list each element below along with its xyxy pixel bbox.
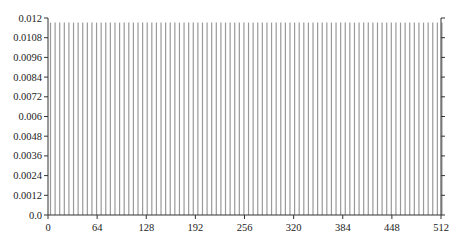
- x-tick-label: 64: [92, 222, 103, 233]
- bars: [51, 23, 442, 215]
- x-tick-label: 128: [138, 222, 154, 233]
- y-tick-label: 0.0024: [13, 170, 43, 181]
- x-tick-label: 256: [237, 222, 253, 233]
- y-tick-label: 0.0036: [13, 150, 42, 161]
- bar-chart: 0.00.00120.00240.00360.00480.0060.00720.…: [0, 0, 455, 242]
- x-tick-label: 0: [45, 222, 50, 233]
- y-tick-label: 0.0096: [13, 52, 42, 63]
- y-tick-label: 0.0084: [13, 72, 43, 83]
- y-tick-label: 0.0: [29, 210, 42, 221]
- x-axis-ticks: 064128192256320384448512: [45, 215, 449, 233]
- y-tick-label: 0.0072: [13, 91, 42, 102]
- x-tick-label: 192: [188, 222, 204, 233]
- x-tick-label: 320: [286, 222, 302, 233]
- y-tick-label: 0.012: [18, 13, 42, 24]
- x-tick-label: 448: [384, 222, 400, 233]
- y-tick-label: 0.0108: [13, 32, 42, 43]
- x-tick-label: 384: [335, 222, 352, 233]
- y-tick-label: 0.0012: [13, 190, 42, 201]
- y-tick-label: 0.0048: [13, 131, 42, 142]
- y-tick-label: 0.006: [18, 111, 42, 122]
- x-tick-label: 512: [433, 222, 449, 233]
